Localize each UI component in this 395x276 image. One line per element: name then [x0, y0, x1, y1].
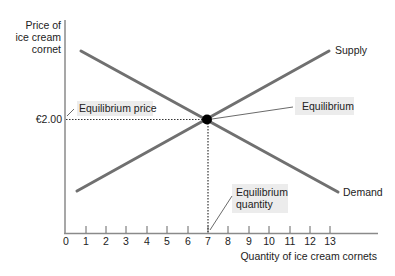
y-axis-label-line-2: ice cream — [15, 31, 61, 43]
tick-label-0: 0 — [63, 235, 69, 247]
equilibrium-label: Equilibrium — [302, 100, 354, 112]
tick-label-9: 9 — [246, 235, 252, 247]
tick-label-2: 2 — [103, 235, 109, 247]
supply-label: Supply — [335, 44, 368, 56]
tick-label-3: 3 — [123, 235, 129, 247]
y-axis-label-line-1: Price of — [25, 19, 61, 31]
tick-label-1: 1 — [83, 235, 89, 247]
equilibrium-point — [202, 115, 212, 125]
x-axis-tick-labels: 0 1 2 3 4 5 6 7 8 9 10 11 12 13 — [63, 235, 336, 247]
x-axis-label: Quantity of ice cream cornets — [240, 250, 377, 262]
supply-demand-chart: Price of ice cream cornet 0 1 2 3 4 5 6 … — [0, 0, 395, 276]
tick-label-4: 4 — [144, 235, 150, 247]
tick-label-5: 5 — [164, 235, 170, 247]
price-tick-label: €2.00 — [36, 113, 62, 125]
tick-label-12: 12 — [304, 235, 316, 247]
equilibrium-quantity-label-line-1: Equilibrium — [236, 186, 288, 198]
y-axis-label-line-3: cornet — [32, 43, 61, 55]
tick-label-8: 8 — [225, 235, 231, 247]
tick-label-11: 11 — [285, 235, 296, 247]
equilibrium-quantity-leader — [210, 196, 232, 230]
tick-label-6: 6 — [185, 235, 191, 247]
tick-label-10: 10 — [263, 235, 275, 247]
equilibrium-price-leader — [67, 109, 74, 116]
tick-label-7: 7 — [205, 235, 211, 247]
equilibrium-price-label: Equilibrium price — [79, 102, 157, 114]
demand-label: Demand — [343, 186, 383, 198]
tick-label-13: 13 — [324, 235, 336, 247]
equilibrium-quantity-label-line-2: quantity — [236, 198, 274, 210]
